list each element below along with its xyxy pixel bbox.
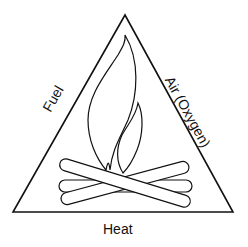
fire-triangle-diagram: Fuel Air (Oxygen) Heat [0,0,248,247]
fire-triangle-graphic [0,0,248,247]
heat-label: Heat [103,222,133,236]
